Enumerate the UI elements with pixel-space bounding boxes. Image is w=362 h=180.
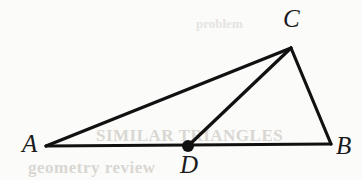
vertex-label-d: D: [180, 152, 198, 177]
segment-CB: [291, 48, 331, 144]
vertex-label-c: C: [283, 6, 300, 31]
segment-CD: [188, 48, 291, 146]
cevian-group: [188, 48, 291, 146]
triangle-edges: [46, 48, 331, 146]
segment-AC: [46, 48, 291, 146]
geometry-figure: SIMILAR TRIANGLES geometry review proble…: [0, 0, 362, 180]
vertex-label-b: B: [336, 133, 351, 158]
vertex-label-a: A: [22, 131, 37, 156]
